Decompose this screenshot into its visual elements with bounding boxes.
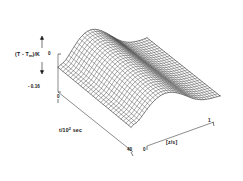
vertical-axis-tick-top: 0 (48, 52, 51, 57)
depth-axis-tick-far: 40 (127, 148, 132, 153)
horizontal-axis-tick-left: 0 (143, 148, 146, 153)
plot-background (0, 0, 243, 181)
depth-axis-label: t/102 sec (59, 128, 82, 133)
horizontal-axis-label: [z/s] (166, 140, 177, 145)
surface-plot-figure (0, 0, 243, 181)
vertical-axis-label: (T - Tm)/K (15, 52, 40, 58)
vertical-axis-tick-bottom: - 0.16 (28, 85, 40, 90)
depth-axis-tick-near: 0 (57, 95, 60, 100)
horizontal-axis-tick-right: 1 (208, 119, 211, 124)
